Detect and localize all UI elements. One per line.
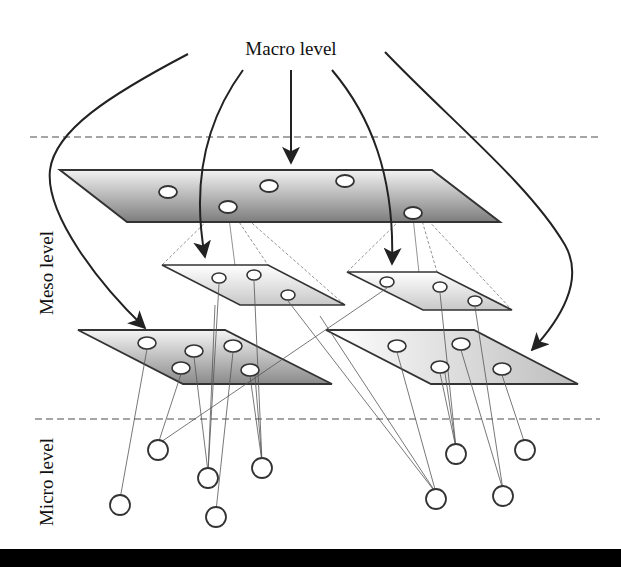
micro-level-label: Micro level — [36, 438, 57, 526]
micro-node — [493, 486, 513, 506]
multilevel-diagram: Macro level Meso level Micro level — [0, 0, 621, 567]
micro-node — [515, 440, 535, 460]
arrow-to-meso-top-left — [200, 70, 243, 257]
meso-node — [493, 363, 511, 375]
micro-node — [198, 468, 218, 488]
meso-plane-top-right — [347, 272, 512, 310]
meso-node — [241, 364, 259, 376]
meso-node — [388, 340, 406, 352]
meso-node — [431, 361, 449, 373]
meso-node — [224, 340, 242, 352]
macro-node — [159, 186, 177, 198]
meso-node — [281, 290, 295, 300]
macro-plane — [60, 170, 500, 222]
micro-nodes — [110, 440, 535, 527]
meso-node — [138, 337, 156, 349]
macro-node — [219, 201, 237, 213]
meso-node — [212, 273, 226, 283]
meso-node — [172, 362, 190, 374]
micro-node — [426, 489, 446, 509]
micro-node — [206, 507, 226, 527]
micro-node — [110, 495, 130, 515]
meso-plane-bottom-left — [78, 330, 332, 384]
meso-node — [433, 282, 447, 292]
meso-to-micro-links — [120, 281, 525, 511]
micro-node — [148, 440, 168, 460]
macro-level-label: Macro level — [245, 38, 336, 59]
macro-node — [260, 180, 278, 192]
micro-node — [252, 458, 272, 478]
meso-level-label: Meso level — [36, 231, 57, 315]
meso-node — [380, 277, 394, 287]
meso-plane-bottom-right — [326, 330, 578, 384]
meso-node — [185, 345, 203, 357]
macro-node — [404, 207, 422, 219]
meso-node — [468, 296, 482, 306]
meso-node — [247, 270, 261, 280]
micro-node — [446, 444, 466, 464]
meso-node — [452, 338, 470, 350]
footer-bar — [0, 549, 621, 567]
macro-node — [336, 175, 354, 187]
arrow-to-meso-top-right — [332, 70, 392, 264]
